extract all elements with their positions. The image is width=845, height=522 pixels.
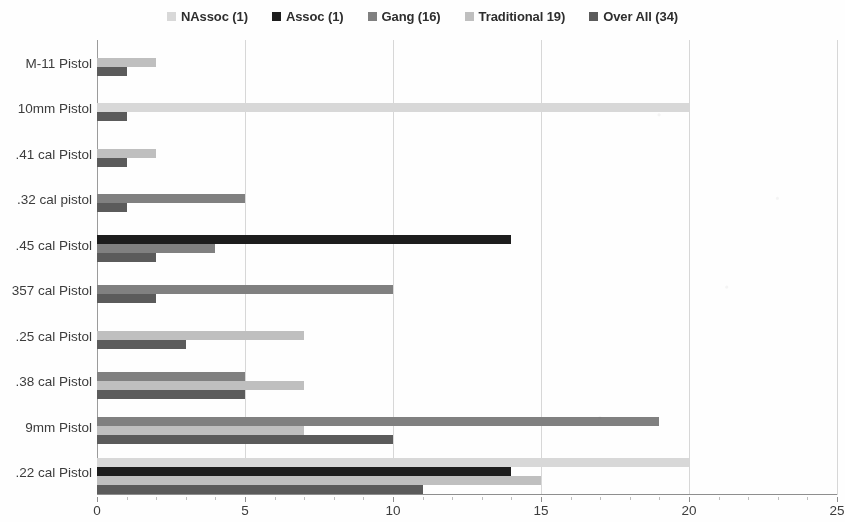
x-tick-minor xyxy=(423,497,424,500)
y-axis-label: M-11 Pistol xyxy=(0,55,92,70)
bar xyxy=(97,381,304,390)
x-tick-minor xyxy=(511,497,512,500)
bar-group xyxy=(97,268,837,314)
bar-group xyxy=(97,86,837,132)
x-tick-label: 20 xyxy=(681,503,696,518)
bar xyxy=(97,372,245,381)
bar-group xyxy=(97,177,837,223)
x-tick-minor xyxy=(215,497,216,500)
x-tick-label: 10 xyxy=(385,503,400,518)
x-tick-minor xyxy=(748,497,749,500)
y-axis-label: .41 cal Pistol xyxy=(0,146,92,161)
y-axis-label: .45 cal Pistol xyxy=(0,237,92,252)
x-tick-minor xyxy=(334,497,335,500)
x-tick-minor xyxy=(807,497,808,500)
bar-group xyxy=(97,404,837,450)
bar-group xyxy=(97,359,837,405)
x-tick-major xyxy=(689,497,690,502)
y-axis-label: 9mm Pistol xyxy=(0,419,92,434)
x-tick-minor xyxy=(778,497,779,500)
x-tick-minor xyxy=(452,497,453,500)
bar xyxy=(97,194,245,203)
bar xyxy=(97,426,304,435)
bar xyxy=(97,158,127,167)
bar-group xyxy=(97,313,837,359)
square-swatch-icon xyxy=(589,12,598,21)
x-tick-minor xyxy=(275,497,276,500)
bar xyxy=(97,390,245,399)
x-tick-minor xyxy=(156,497,157,500)
bar-group xyxy=(97,450,837,496)
bar xyxy=(97,103,689,112)
x-tick-major xyxy=(837,497,838,502)
x-axis-ticks: 0510152025 xyxy=(97,497,837,521)
legend-item-label: Over All (34) xyxy=(603,9,678,24)
legend-item[interactable]: Traditional 19) xyxy=(465,9,566,24)
bar xyxy=(97,253,156,262)
x-tick-minor xyxy=(719,497,720,500)
y-axis-label: .25 cal Pistol xyxy=(0,328,92,343)
bar xyxy=(97,417,659,426)
legend-item[interactable]: NAssoc (1) xyxy=(167,9,248,24)
square-swatch-icon xyxy=(272,12,281,21)
x-tick-minor xyxy=(600,497,601,500)
legend-item[interactable]: Assoc (1) xyxy=(272,9,344,24)
legend-item[interactable]: Over All (34) xyxy=(589,9,678,24)
bar xyxy=(97,331,304,340)
x-tick-label: 0 xyxy=(93,503,101,518)
square-swatch-icon xyxy=(368,12,377,21)
x-tick-label: 25 xyxy=(829,503,844,518)
x-tick-minor xyxy=(571,497,572,500)
x-tick-label: 5 xyxy=(241,503,249,518)
y-axis-label: .32 cal pistol xyxy=(0,192,92,207)
legend-item-label: NAssoc (1) xyxy=(181,9,248,24)
x-axis-baseline xyxy=(97,494,837,495)
x-tick-minor xyxy=(363,497,364,500)
y-axis-category-labels: M-11 Pistol10mm Pistol.41 cal Pistol.32 … xyxy=(0,40,92,495)
bar-chart: NAssoc (1)Assoc (1)Gang (16)Traditional … xyxy=(0,0,845,522)
bar xyxy=(97,435,393,444)
bar xyxy=(97,485,423,494)
bar-group xyxy=(97,131,837,177)
y-axis-label: .22 cal Pistol xyxy=(0,465,92,480)
bar xyxy=(97,340,186,349)
bar xyxy=(97,476,541,485)
bar xyxy=(97,235,511,244)
x-tick-major xyxy=(393,497,394,502)
bar xyxy=(97,149,156,158)
x-tick-label: 15 xyxy=(533,503,548,518)
bar xyxy=(97,467,511,476)
y-axis-label: 10mm Pistol xyxy=(0,101,92,116)
bar-group xyxy=(97,222,837,268)
bar xyxy=(97,458,689,467)
bar xyxy=(97,203,127,212)
y-axis-label: 357 cal Pistol xyxy=(0,283,92,298)
x-tick-minor xyxy=(304,497,305,500)
x-tick-minor xyxy=(127,497,128,500)
bar xyxy=(97,294,156,303)
y-axis-label: .38 cal Pistol xyxy=(0,374,92,389)
x-tick-minor xyxy=(482,497,483,500)
x-tick-major xyxy=(245,497,246,502)
legend-item[interactable]: Gang (16) xyxy=(368,9,441,24)
gridline xyxy=(837,40,838,495)
chart-legend: NAssoc (1)Assoc (1)Gang (16)Traditional … xyxy=(0,4,845,28)
x-tick-minor xyxy=(186,497,187,500)
bar xyxy=(97,112,127,121)
square-swatch-icon xyxy=(167,12,176,21)
x-tick-major xyxy=(97,497,98,502)
x-tick-minor xyxy=(630,497,631,500)
legend-item-label: Assoc (1) xyxy=(286,9,344,24)
x-tick-major xyxy=(541,497,542,502)
plot-area xyxy=(97,40,837,495)
legend-item-label: Gang (16) xyxy=(382,9,441,24)
bar xyxy=(97,58,156,67)
bar xyxy=(97,244,215,253)
x-tick-minor xyxy=(659,497,660,500)
legend-item-label: Traditional 19) xyxy=(479,9,566,24)
bar-group xyxy=(97,40,837,86)
bar xyxy=(97,285,393,294)
bar xyxy=(97,67,127,76)
square-swatch-icon xyxy=(465,12,474,21)
